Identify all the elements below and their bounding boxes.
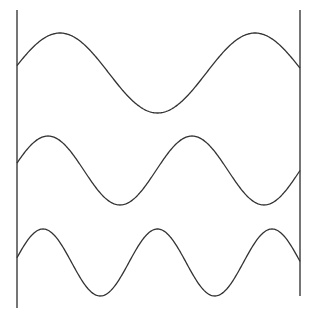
standing-wave-2: [17, 136, 300, 205]
standing-wave-3: [17, 229, 300, 296]
standing-waves-diagram: [0, 0, 318, 326]
standing-wave-1: [17, 33, 300, 113]
